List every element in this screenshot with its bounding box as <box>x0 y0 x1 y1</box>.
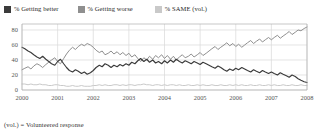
legend-swatch-icon <box>78 6 85 13</box>
legend-label: % Getting worse <box>88 5 133 13</box>
legend-item-getting-worse[interactable]: % Getting worse <box>78 3 133 15</box>
legend-item-getting-better[interactable]: % Getting better <box>4 3 59 15</box>
x-tick-label: 2004 <box>158 94 172 101</box>
legend-swatch-icon <box>155 6 162 13</box>
x-tick-label: 2001 <box>51 94 64 101</box>
footnote: (vol.) = Volunteered response <box>4 120 84 129</box>
x-tick-label: 2003 <box>122 94 135 101</box>
survey-trend-chart: % Getting better % Getting worse % SAME … <box>0 0 314 134</box>
y-tick-label: 0 <box>15 86 18 93</box>
x-tick-label: 2008 <box>301 94 314 101</box>
chart-legend: % Getting better % Getting worse % SAME … <box>0 2 314 16</box>
legend-label: % SAME (vol.) <box>165 5 207 13</box>
y-axis-ticks: 020406080 <box>12 26 18 93</box>
x-tick-label: 2000 <box>16 94 29 101</box>
chart-svg: 020406080 200020012002200320042005200620… <box>0 18 314 110</box>
x-axis-ticks: 200020012002200320042005200620072008 <box>16 94 314 101</box>
legend-item-same[interactable]: % SAME (vol.) <box>155 3 207 15</box>
x-tick-label: 2002 <box>87 94 100 101</box>
plot-area: 020406080 200020012002200320042005200620… <box>0 18 314 110</box>
legend-swatch-icon <box>4 6 11 13</box>
x-tick-label: 2007 <box>265 94 279 101</box>
y-tick-label: 20 <box>12 71 18 78</box>
y-tick-label: 40 <box>12 56 18 63</box>
legend-label: % Getting better <box>14 5 59 13</box>
x-tick-label: 2006 <box>229 94 242 101</box>
x-tick-label: 2005 <box>194 94 207 101</box>
y-tick-label: 60 <box>12 41 18 48</box>
y-tick-label: 80 <box>12 26 18 33</box>
